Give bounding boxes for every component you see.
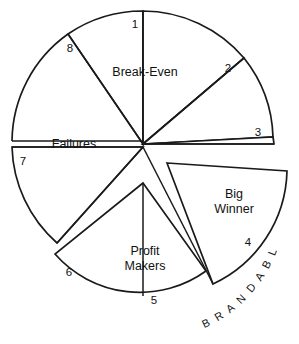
label-break-even: Break-Even <box>112 65 177 79</box>
label-big-winner-line1: Big <box>225 187 243 201</box>
segment-number-8: 8 <box>67 42 73 54</box>
label-profit-makers-line2: Makers <box>125 259 166 273</box>
segment-number-6: 6 <box>66 266 72 278</box>
segment-number-7: 7 <box>20 155 26 167</box>
label-profit-makers-line1: Profit <box>130 244 160 258</box>
segment-number-3: 3 <box>255 126 261 138</box>
segment-number-4: 4 <box>245 236 252 248</box>
segment-number-5: 5 <box>151 294 157 306</box>
label-big-winner-line2: Winner <box>214 202 254 216</box>
segment-number-1: 1 <box>132 18 138 30</box>
wheel-svg: 1 2 3 4 5 6 7 8 Break-Even Failures Prof… <box>0 0 299 344</box>
label-failures: Failures <box>52 137 96 151</box>
brandables-wheel-diagram: 1 2 3 4 5 6 7 8 Break-Even Failures Prof… <box>0 0 299 344</box>
segment-number-2: 2 <box>225 62 231 74</box>
outer-arc-upper-left <box>12 34 68 141</box>
